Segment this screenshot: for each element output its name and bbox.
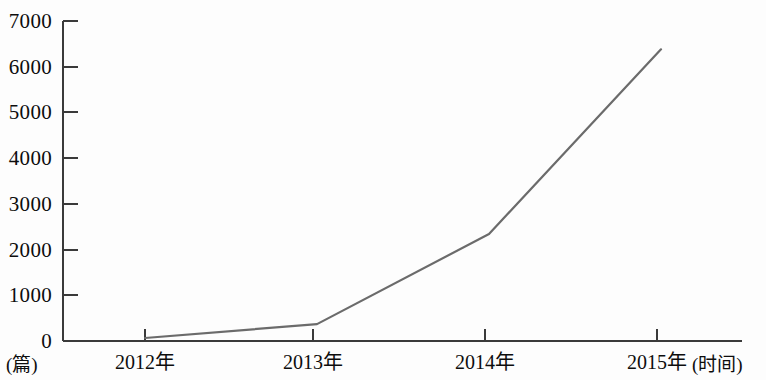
y-tick-label-7000: 7000 [0, 11, 52, 32]
x-axis-unit-label: (时间) [692, 355, 743, 374]
line-chart: 7000 6000 5000 4000 3000 2000 1000 0 201… [0, 0, 766, 380]
y-tick-label-0: 0 [0, 331, 52, 352]
x-tick-label-2014: 2014年 [425, 352, 545, 372]
y-tick-label-1000: 1000 [0, 285, 52, 306]
y-tick-label-4000: 4000 [0, 148, 52, 169]
x-tick-label-2013: 2013年 [253, 352, 373, 372]
y-tick-label-2000: 2000 [0, 240, 52, 261]
y-axis-unit-label: (篇) [6, 355, 38, 374]
data-series-line [145, 49, 661, 338]
y-tick-label-5000: 5000 [0, 102, 52, 123]
y-tick-label-6000: 6000 [0, 57, 52, 78]
y-tick-label-3000: 3000 [0, 194, 52, 215]
y-axis-ticks [63, 21, 78, 295]
x-tick-label-2012: 2012年 [85, 352, 205, 372]
chart-plot-area [0, 0, 766, 380]
